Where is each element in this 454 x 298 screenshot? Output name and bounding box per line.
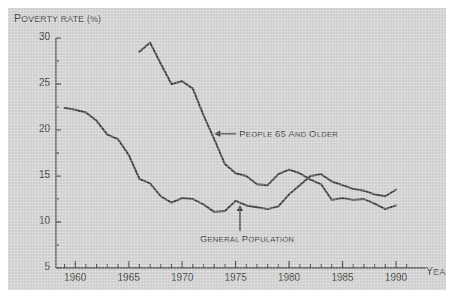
x-tick-label: 1970	[165, 272, 199, 283]
x-tick-label: 1960	[58, 272, 92, 283]
y-tick-label: 25	[28, 77, 50, 88]
general-population-annotation: GENERAL POPULATION	[200, 233, 295, 244]
series-group	[65, 43, 396, 212]
y-tick-label: 30	[28, 31, 50, 42]
y-tick-label: 20	[28, 123, 50, 134]
chart-plot-area	[8, 8, 446, 290]
chart-figure: POVERTY RATE (%) YEAR 51015202530 196019…	[8, 8, 446, 290]
x-tick-label: 1990	[379, 272, 413, 283]
y-axis-title: POVERTY RATE (%)	[14, 12, 101, 24]
x-tick-label: 1985	[326, 272, 360, 283]
general-annotation-text: GENERAL POPULATION	[200, 235, 295, 244]
elderly-series-annotation: PEOPLE 65 AND OLDER	[239, 128, 338, 139]
x-axis-title: YEAR	[426, 265, 446, 277]
annotation-arrows	[214, 130, 243, 230]
y-tick-label: 5	[28, 261, 50, 272]
x-tick-label: 1965	[112, 272, 146, 283]
y-axis-title-rest: OVERTY RATE (%)	[21, 14, 101, 24]
y-tick-label: 15	[28, 169, 50, 180]
x-tick-label: 1975	[219, 272, 253, 283]
y-tick-label: 10	[28, 215, 50, 226]
x-tick-label: 1980	[272, 272, 306, 283]
x-axis-title-rest: EAR	[433, 267, 446, 277]
elderly-annotation-text: PEOPLE 65 AND OLDER	[239, 130, 338, 139]
